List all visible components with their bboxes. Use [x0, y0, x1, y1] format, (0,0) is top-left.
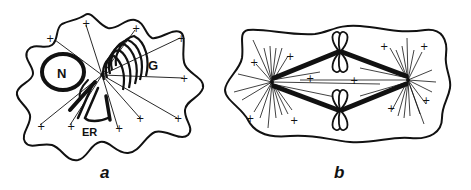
svg-text:+: + [246, 113, 254, 124]
svg-text:+: + [37, 121, 45, 132]
svg-text:+: + [286, 51, 294, 62]
svg-text:+: + [350, 75, 358, 86]
svg-text:+: + [306, 73, 314, 84]
svg-text:+: + [67, 121, 75, 132]
svg-text:+: + [177, 33, 185, 44]
svg-text:+: + [180, 73, 188, 84]
panel-a-interphase-cell: N G ER + + + + + + + + [0, 0, 220, 190]
golgi-apparatus [103, 36, 147, 90]
er-label: ER [82, 126, 97, 138]
right-centrosome [406, 78, 410, 82]
svg-text:+: + [250, 57, 258, 68]
svg-text:+: + [115, 123, 123, 134]
svg-text:+: + [420, 41, 428, 52]
svg-text:+: + [422, 95, 430, 106]
svg-text:+: + [46, 33, 54, 44]
svg-text:+: + [82, 18, 90, 29]
interphase-cell-diagram: N G ER + + + + + + + + [0, 0, 220, 190]
cell-membrane [17, 14, 203, 160]
nucleus-label: N [57, 66, 66, 81]
centrosome [100, 73, 104, 77]
panel-b-caption: b [334, 163, 344, 182]
svg-text:+: + [132, 23, 140, 34]
panel-b-mitotic-spindle: + + + + + + + + + + b [220, 0, 471, 190]
mitotic-spindle-diagram: + + + + + + + + + + b [220, 0, 471, 190]
right-aster [390, 38, 436, 124]
svg-text:+: + [174, 113, 182, 124]
panel-a-caption: a [100, 163, 109, 182]
svg-text:+: + [387, 103, 395, 114]
svg-text:+: + [380, 41, 388, 52]
svg-text:+: + [136, 113, 144, 124]
left-centrosome [270, 80, 274, 84]
svg-text:+: + [290, 115, 298, 126]
golgi-label: G [148, 58, 158, 73]
